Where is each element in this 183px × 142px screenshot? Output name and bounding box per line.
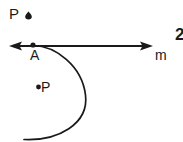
label-line-m: m	[155, 48, 167, 62]
geometry-figure: P A P m 2	[0, 0, 183, 142]
label-point-p-center: P	[41, 80, 50, 94]
label-point-p-top: P	[9, 6, 20, 21]
point-p-top-marker	[25, 12, 32, 20]
figure-canvas	[0, 0, 183, 142]
label-point-a: A	[30, 48, 39, 62]
label-partial-edge-number: 2	[175, 26, 183, 43]
